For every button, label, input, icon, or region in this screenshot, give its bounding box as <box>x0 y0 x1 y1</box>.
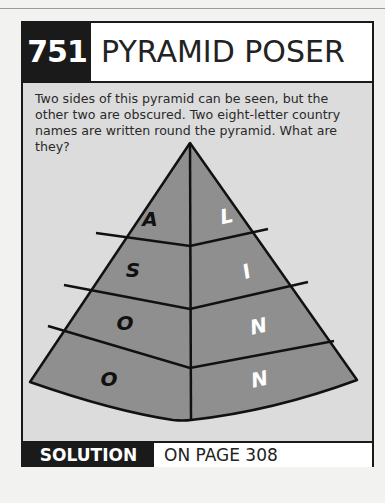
left-letter-4: O <box>100 367 117 391</box>
puzzle-title: PYRAMID POSER <box>101 23 345 81</box>
left-letter-3: O <box>116 311 133 335</box>
page-top-rule <box>0 8 385 9</box>
puzzle-header: 751 PYRAMID POSER <box>23 23 372 83</box>
solution-footer: SOLUTION ON PAGE 308 <box>23 441 372 467</box>
left-letter-2: S <box>126 258 140 282</box>
pyramid-illustration: A S O O L I N N <box>23 141 372 441</box>
puzzle-number: 751 <box>23 23 91 81</box>
solution-label: SOLUTION <box>23 443 154 467</box>
puzzle-card: 751 PYRAMID POSER Two sides of this pyra… <box>21 21 374 467</box>
left-letter-1: A <box>140 207 157 231</box>
solution-page-reference: ON PAGE 308 <box>164 443 278 467</box>
